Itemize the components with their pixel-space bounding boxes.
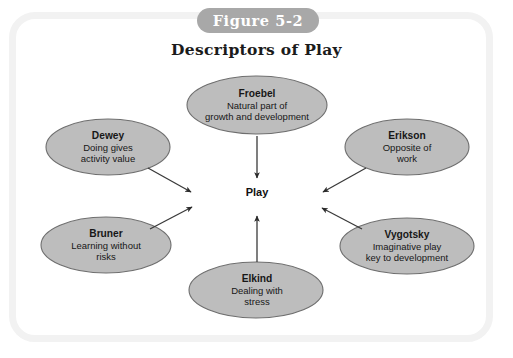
node-ellipse-bruner [41,217,171,273]
connector-dewey-play [148,168,191,192]
node-ellipse-erikson [345,119,469,175]
node-ellipse-elkind [189,262,323,318]
node-ellipse-dewey [46,119,170,175]
node-ellipse-vygotsky [340,218,474,274]
figure-title: Descriptors of Play [0,40,513,59]
figure-container: Figure 5-2 Descriptors of Play Froebel N… [0,0,513,358]
connector-bruner-play [150,207,192,229]
connector-erikson-play [323,168,366,192]
center-node-play: Play [210,186,304,198]
figure-number-banner: Figure 5-2 [197,8,319,33]
connector-vygotsky-play [322,208,362,229]
node-ellipse-froebel [187,76,327,134]
